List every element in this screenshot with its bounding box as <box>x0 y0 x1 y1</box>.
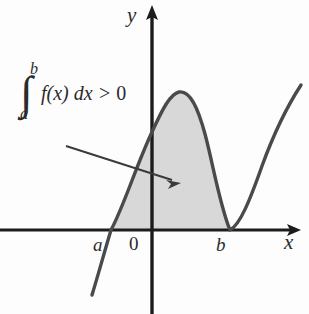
x-axis-label: x <box>284 232 293 253</box>
figure-canvas <box>0 0 309 314</box>
integral-operator: b ∫ a <box>18 62 40 120</box>
integrand-text: f(x) dx > <box>41 82 111 104</box>
origin-label: 0 <box>129 234 139 253</box>
x-tick-label-b: b <box>216 235 226 254</box>
integral-annotation: b ∫ a f(x) dx > 0 <box>18 62 126 120</box>
integral-lower-limit: a <box>20 105 28 123</box>
y-axis-label: y <box>127 5 136 26</box>
integrand-expression: f(x) dx > 0 <box>41 82 126 105</box>
integral-figure: y x a 0 b b ∫ a f(x) dx > 0 <box>0 0 309 314</box>
comparison-value: 0 <box>116 82 126 104</box>
x-tick-label-a: a <box>93 235 103 254</box>
